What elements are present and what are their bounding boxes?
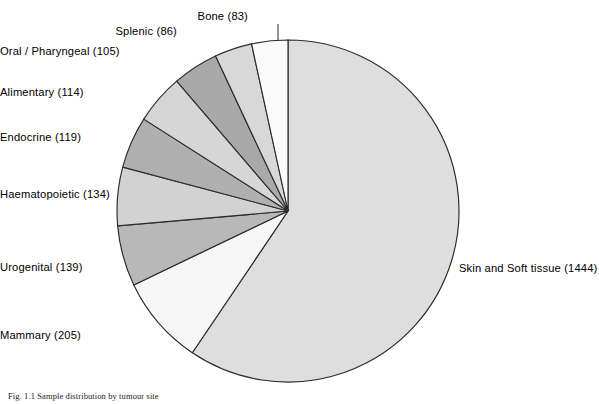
figure-canvas: Skin and Soft tissue (1444)Mammary (205)… [0, 0, 599, 404]
pie-slice-label: Endocrine (119) [0, 131, 46, 144]
pie-slice-label: Bone (83) [0, 10, 248, 23]
figure-caption: Fig. 1.1 Sample distribution by tumour s… [8, 391, 159, 404]
pie-slice-label: Splenic (86) [0, 25, 177, 38]
pie-slices-group [117, 40, 459, 382]
pie-slice-label: Alimentary (114) [0, 86, 70, 99]
pie-slice-label: Urogenital (139) [0, 261, 50, 274]
pie-chart [0, 0, 599, 404]
pie-slice-label: Mammary (205) [0, 329, 78, 342]
pie-slice-label: Skin and Soft tissue (1444) [459, 262, 597, 275]
pie-slice-label: Oral / Pharyngeal (105) [0, 45, 82, 58]
pie-slice-label: Haematopoietic (134) [0, 188, 12, 201]
